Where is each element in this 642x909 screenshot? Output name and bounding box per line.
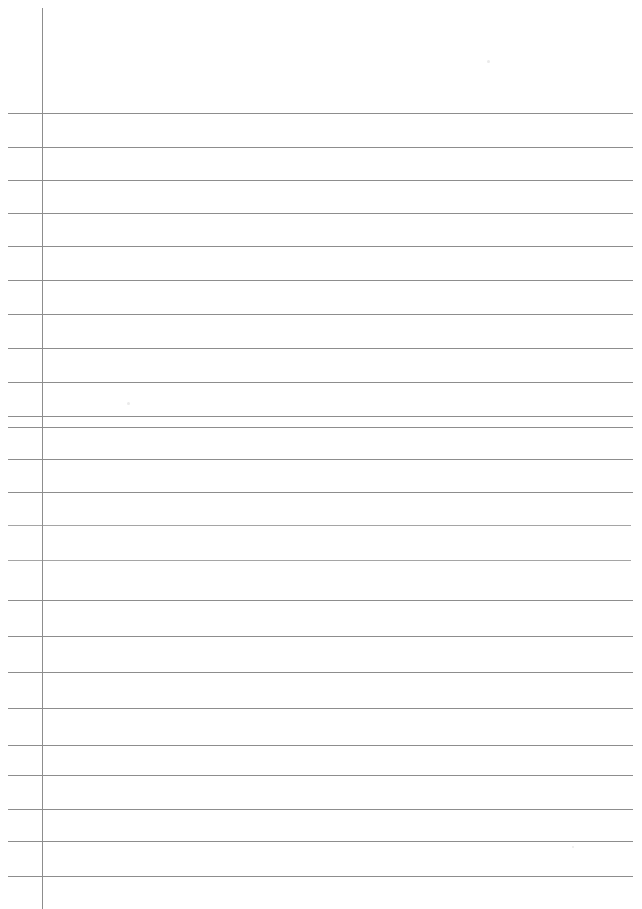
rule-line bbox=[8, 809, 633, 810]
rule-line bbox=[8, 525, 631, 526]
scan-speck bbox=[572, 846, 574, 848]
rule-line bbox=[8, 600, 633, 601]
rule-line bbox=[8, 459, 633, 460]
rule-line bbox=[8, 213, 633, 214]
rule-line bbox=[8, 416, 633, 417]
rule-line bbox=[8, 180, 633, 181]
rule-line bbox=[8, 348, 633, 349]
rule-line bbox=[8, 636, 633, 637]
scan-speck bbox=[487, 60, 490, 63]
rule-line bbox=[8, 147, 633, 148]
rule-line bbox=[8, 427, 633, 428]
rule-line bbox=[8, 841, 633, 842]
rule-line bbox=[8, 560, 631, 561]
vertical-margin-line bbox=[42, 8, 43, 909]
rule-line bbox=[8, 672, 633, 673]
rule-line bbox=[8, 775, 633, 776]
paper-background bbox=[0, 0, 642, 909]
scan-speck bbox=[127, 402, 130, 405]
rule-line bbox=[8, 708, 633, 709]
rule-line bbox=[8, 113, 633, 114]
rule-line bbox=[8, 314, 633, 315]
rule-line bbox=[8, 492, 633, 493]
rule-line bbox=[8, 246, 633, 247]
rule-line bbox=[8, 745, 633, 746]
rule-line bbox=[8, 382, 633, 383]
rule-line bbox=[8, 876, 633, 877]
rule-line bbox=[8, 280, 633, 281]
scanned-page bbox=[0, 0, 642, 909]
